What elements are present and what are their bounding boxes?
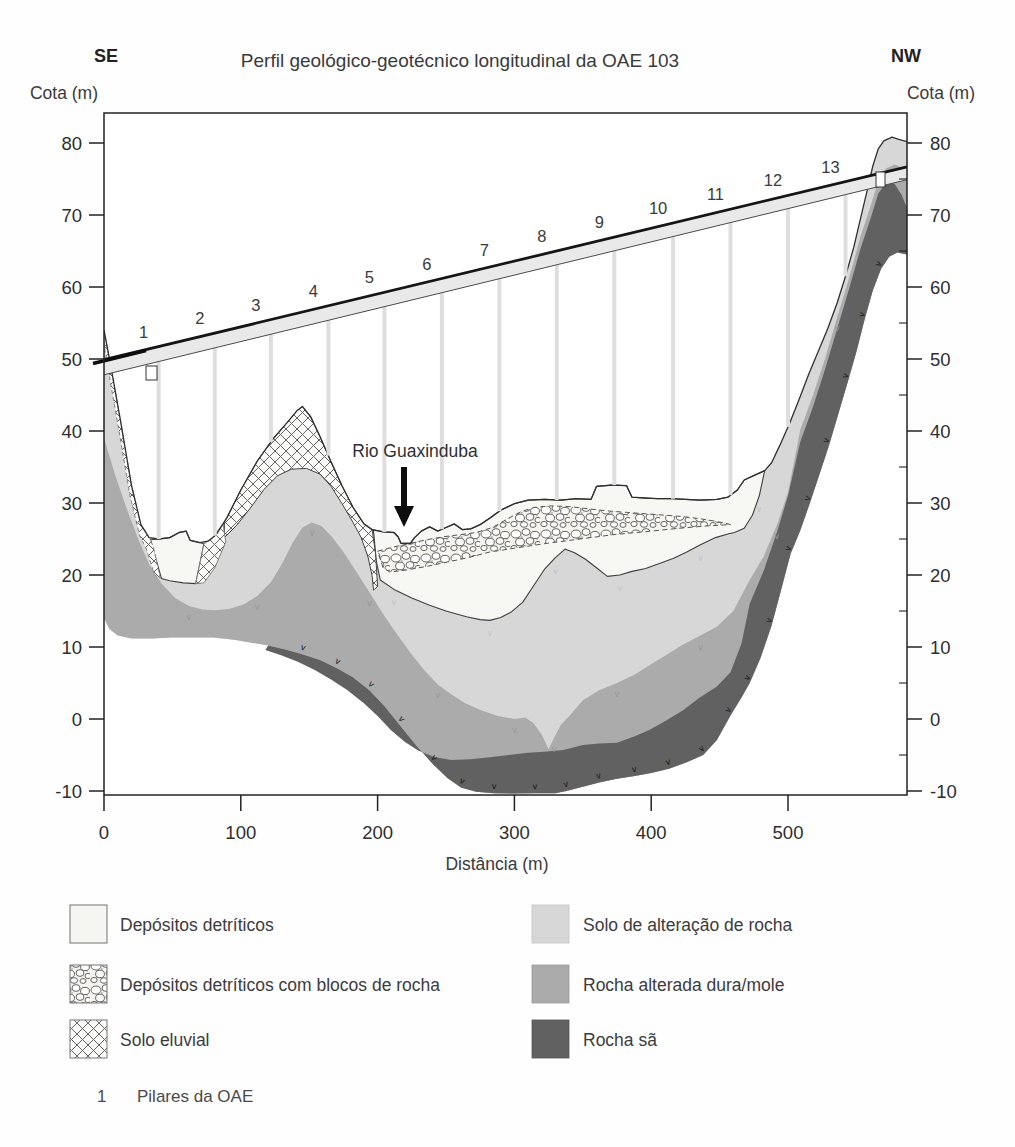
- elev-tick-label-left: 0: [72, 709, 82, 730]
- pillar-number: 5: [365, 268, 374, 286]
- legend-swatch-rocha-sa: [532, 1020, 569, 1058]
- svg-text:v: v: [617, 583, 622, 593]
- legend-swatch-depositos-blocos: [70, 965, 107, 1003]
- dist-tick-label: 200: [362, 822, 393, 843]
- elev-tick-label-right: -10: [930, 781, 957, 802]
- elev-tick-label-left: 50: [61, 349, 82, 370]
- pillar: [844, 195, 848, 277]
- pillar: [269, 334, 273, 442]
- dist-tick-label: 0: [99, 822, 109, 843]
- svg-text:v: v: [698, 642, 703, 652]
- svg-text:v: v: [310, 528, 315, 538]
- legend-swatch-depositos-detriticos: [70, 905, 107, 943]
- legend-swatch-solo-eluvial: [70, 1020, 107, 1058]
- pillar-number: 6: [422, 255, 431, 273]
- pillar: [612, 251, 616, 485]
- geological-profile-figure: Perfil geológico-geotécnico longitudinal…: [0, 0, 1015, 1147]
- direction-label-se: SE: [94, 46, 118, 66]
- elev-tick-label-left: -10: [55, 781, 82, 802]
- svg-text:v: v: [553, 566, 558, 576]
- elev-tick-label-left: 20: [61, 565, 82, 586]
- svg-text:v: v: [757, 504, 762, 514]
- elev-tick-label-left: 70: [61, 205, 82, 226]
- legend-label-solo-eluvial: Solo eluvial: [120, 1030, 210, 1050]
- pillar-number: 10: [649, 199, 667, 217]
- elev-tick-label-right: 70: [930, 205, 951, 226]
- elev-tick-label-right: 10: [930, 637, 951, 658]
- distance-axis-label: Distância (m): [445, 854, 548, 874]
- legend-label-depositos-blocos: Depósitos detríticos com blocos de rocha: [120, 975, 440, 995]
- elev-tick-label-right: 60: [930, 277, 951, 298]
- elev-tick-label-right: 80: [930, 133, 951, 154]
- elev-tick-label-right: 40: [930, 421, 951, 442]
- svg-text:v: v: [698, 553, 703, 563]
- svg-text:v: v: [187, 612, 192, 622]
- figure-title: Perfil geológico-geotécnico longitudinal…: [241, 50, 679, 71]
- dist-tick-label: 300: [499, 822, 530, 843]
- pillar: [157, 362, 161, 540]
- pillar-number: 7: [480, 241, 489, 259]
- svg-text:v: v: [775, 531, 780, 541]
- svg-text:v: v: [436, 690, 441, 700]
- pillar-number: 12: [764, 171, 782, 189]
- pillar: [213, 348, 217, 536]
- pillar: [671, 237, 675, 499]
- elev-tick-label-left: 30: [61, 493, 82, 514]
- elevation-axis-label-right: Cota (m): [907, 83, 975, 103]
- svg-text:v: v: [367, 598, 372, 608]
- legend-swatch-rocha-alterada: [532, 965, 569, 1003]
- pillar-number: 4: [309, 282, 318, 300]
- dist-tick-label: 100: [225, 822, 256, 843]
- pillar-number: 3: [251, 296, 260, 314]
- footnote-label: Pilares da OAE: [137, 1087, 253, 1106]
- pillar: [729, 223, 733, 496]
- svg-text:v: v: [392, 597, 397, 607]
- geological-profile-page: Perfil geológico-geotécnico longitudinal…: [0, 0, 1015, 1147]
- svg-text:v: v: [512, 725, 517, 735]
- footnote: 1 Pilares da OAE: [97, 1087, 253, 1106]
- pillar-number: 13: [821, 158, 839, 176]
- elev-tick-label-left: 40: [61, 421, 82, 442]
- pillar: [382, 307, 386, 532]
- elev-tick-label-left: 60: [61, 277, 82, 298]
- legend-label-rocha-alterada: Rocha alterada dura/mole: [583, 975, 784, 995]
- dist-tick-label: 500: [773, 822, 804, 843]
- svg-text:v: v: [552, 744, 557, 754]
- elev-tick-label-left: 80: [61, 133, 82, 154]
- svg-text:v: v: [533, 781, 538, 791]
- pillar: [497, 279, 501, 511]
- svg-text:v: v: [488, 628, 493, 638]
- legend-label-solo-alteracao: Solo de alteração de rocha: [583, 915, 792, 935]
- footnote-symbol: 1: [97, 1087, 106, 1106]
- svg-text:v: v: [255, 602, 260, 612]
- legend: Depósitos detríticos Depósitos detrítico…: [70, 905, 792, 1058]
- elev-tick-label-right: 20: [930, 565, 951, 586]
- legend-label-rocha-sa: Rocha sã: [583, 1030, 657, 1050]
- pillar-number: 2: [195, 309, 204, 327]
- left-abutment: [146, 366, 157, 380]
- elev-tick-label-right: 30: [930, 493, 951, 514]
- pillar-number: 9: [595, 213, 604, 231]
- dist-tick-label: 400: [636, 822, 667, 843]
- legend-swatch-solo-alteracao: [532, 905, 569, 943]
- pillar: [440, 293, 444, 530]
- elev-tick-label-right: 50: [930, 349, 951, 370]
- svg-text:v: v: [615, 689, 620, 699]
- right-abutment: [876, 172, 885, 187]
- elev-tick-label-left: 10: [61, 637, 82, 658]
- svg-text:v: v: [835, 323, 840, 333]
- pillar: [786, 209, 790, 427]
- pillar: [555, 265, 559, 500]
- pillar-number: 8: [537, 227, 546, 245]
- pillar-number: 11: [707, 185, 724, 203]
- pillar: [326, 320, 330, 455]
- direction-label-nw: NW: [891, 46, 921, 66]
- elev-tick-label-right: 0: [930, 709, 940, 730]
- legend-label-depositos-detriticos: Depósitos detríticos: [120, 915, 274, 935]
- river-label: Rio Guaxinduba: [352, 441, 478, 461]
- pillar-number: 1: [139, 323, 148, 341]
- elevation-axis-label-left: Cota (m): [30, 83, 98, 103]
